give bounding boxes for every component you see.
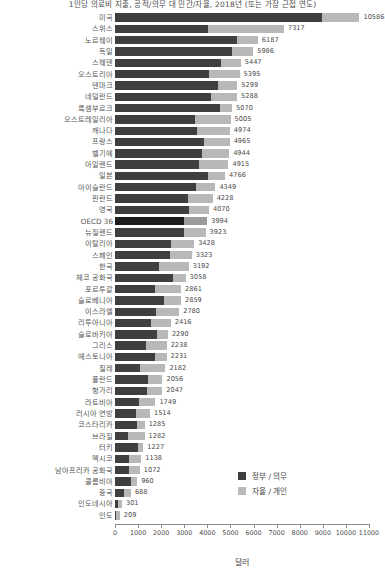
stacked-bar: 3058 — [115, 274, 385, 282]
stacked-bar: 1227 — [115, 443, 385, 451]
category-label: 한국 — [99, 261, 113, 272]
stacked-bar: 209 — [115, 511, 385, 519]
bar-segment-government — [115, 330, 157, 338]
category-label: 영국 — [99, 204, 113, 215]
bar-row: 체코 공화국3058 — [0, 272, 385, 283]
category-label: 멕시코 — [92, 453, 113, 464]
bar-row: 이탈리아3428 — [0, 238, 385, 249]
category-label: 핀란드 — [92, 193, 113, 204]
bar-segment-government — [115, 25, 208, 33]
bar-segment-government — [115, 398, 139, 406]
bar-segment-government — [115, 251, 170, 259]
category-label: 터키 — [99, 442, 113, 453]
x-axis-tick-label: 6000 — [245, 529, 261, 537]
bar-segment-government — [115, 240, 171, 248]
bar-segment-government — [115, 455, 129, 463]
bar-value-label: 688 — [135, 487, 148, 498]
category-label: OECD 36 — [81, 216, 113, 227]
bar-row: 멕시코1138 — [0, 453, 385, 464]
bar-row: 뉴질랜드3923 — [0, 227, 385, 238]
stacked-bar: 3994 — [115, 217, 385, 225]
stacked-bar: 4965 — [115, 138, 385, 146]
bar-segment-government — [115, 308, 156, 316]
x-axis-tick — [277, 524, 278, 528]
stacked-bar: 10586 — [115, 13, 385, 21]
category-label: 덴마크 — [92, 80, 113, 91]
bar-segment-private — [189, 206, 209, 214]
stacked-bar: 4228 — [115, 194, 385, 202]
stacked-bar: 6187 — [115, 36, 385, 44]
category-label: 콜롬비아 — [85, 476, 113, 487]
stacked-bar: 2182 — [115, 364, 385, 372]
stacked-bar: 5447 — [115, 59, 385, 67]
bar-segment-government — [115, 319, 151, 327]
bar-row: 칠레2182 — [0, 363, 385, 374]
bar-value-label: 2290 — [172, 329, 189, 340]
bar-row: 에스토니아2231 — [0, 351, 385, 362]
bar-segment-private — [140, 364, 166, 372]
bar-segment-private — [155, 353, 166, 361]
bar-segment-private — [184, 228, 205, 236]
stacked-bar: 5986 — [115, 47, 385, 55]
stacked-bar: 1514 — [115, 409, 385, 417]
bar-row: 한국3192 — [0, 261, 385, 272]
stacked-bar: 3428 — [115, 240, 385, 248]
bar-segment-private — [197, 127, 230, 135]
bar-segment-private — [118, 500, 121, 508]
bar-row: 스웨덴5447 — [0, 57, 385, 68]
bar-segment-private — [116, 511, 120, 519]
bar-row: 스페인3323 — [0, 250, 385, 261]
bar-segment-government — [115, 409, 136, 417]
bar-value-label: 2859 — [185, 295, 202, 306]
category-label: 룩셈부르크 — [78, 103, 113, 114]
bar-row: 그리스2238 — [0, 340, 385, 351]
stacked-bar: 2859 — [115, 296, 385, 304]
bar-segment-private — [124, 489, 131, 497]
bar-row: 폴란드2056 — [0, 374, 385, 385]
bar-row: 덴마크5299 — [0, 80, 385, 91]
category-label: 인도네시아 — [78, 498, 113, 509]
bar-segment-private — [184, 217, 207, 225]
bar-value-label: 4915 — [232, 159, 249, 170]
bar-segment-government — [115, 387, 147, 395]
stacked-bar: 2231 — [115, 353, 385, 361]
bar-value-label: 5070 — [236, 103, 253, 114]
bar-value-label: 3323 — [196, 250, 213, 261]
legend-swatch-icon — [238, 472, 246, 480]
bar-value-label: 5447 — [245, 57, 262, 68]
bar-value-label: 4974 — [234, 125, 251, 136]
bar-value-label: 1227 — [147, 442, 164, 453]
bar-segment-private — [211, 93, 237, 101]
bar-segment-private — [195, 115, 231, 123]
bar-value-label: 2047 — [166, 385, 183, 396]
bar-segment-government — [115, 13, 322, 21]
bar-row: 러시아 연방1514 — [0, 408, 385, 419]
stacked-bar: 5288 — [115, 93, 385, 101]
bar-segment-private — [164, 296, 181, 304]
bar-value-label: 960 — [141, 476, 154, 487]
bar-value-label: 4070 — [213, 204, 230, 215]
category-label: 슬로바키아 — [78, 329, 113, 340]
category-label: 아일랜드 — [85, 159, 113, 170]
bar-value-label: 5005 — [235, 114, 252, 125]
x-axis-tick — [323, 524, 324, 528]
bar-segment-private — [196, 183, 216, 191]
bar-value-label: 1749 — [159, 397, 176, 408]
category-label: 스페인 — [92, 250, 113, 261]
bar-value-label: 5288 — [241, 91, 258, 102]
bar-segment-private — [136, 409, 150, 417]
bar-row: OECD 363994 — [0, 216, 385, 227]
bar-row: 스위스7317 — [0, 23, 385, 34]
legend-label: 정부 / 의무 — [252, 470, 287, 481]
bar-rows: 미국10586스위스7317노르웨이6187독일5986스웨덴5447오스트리아… — [0, 12, 385, 521]
bar-row: 핀란드4228 — [0, 193, 385, 204]
category-label: 인도 — [99, 510, 113, 521]
category-label: 뉴질랜드 — [85, 227, 113, 238]
bar-segment-government — [115, 36, 237, 44]
bar-row: 슬로베니아2859 — [0, 295, 385, 306]
bar-row: 라트비아1749 — [0, 397, 385, 408]
stacked-bar: 4766 — [115, 172, 385, 180]
category-label: 일본 — [99, 170, 113, 181]
bar-segment-government — [115, 466, 129, 474]
category-label: 그리스 — [92, 340, 113, 351]
